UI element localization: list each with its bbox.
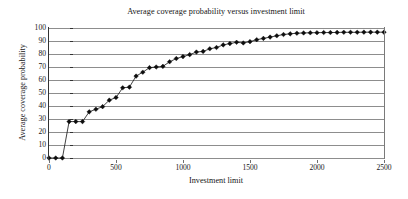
right-axis-line [384, 27, 385, 159]
data-point-marker [154, 65, 159, 70]
y-tick-label: 10 [24, 141, 46, 149]
data-point-marker [208, 47, 213, 52]
data-point-marker [194, 50, 199, 55]
y-tick-label: 40 [24, 102, 46, 110]
x-tick-mark [49, 160, 50, 163]
x-axis-ticks: 05001000150020002500 [49, 160, 384, 174]
data-point-marker [275, 34, 280, 39]
data-point-marker [335, 30, 340, 35]
data-point-marker [301, 31, 306, 36]
data-point-marker [167, 60, 172, 65]
data-point-marker [214, 45, 219, 50]
data-point-marker [127, 85, 132, 90]
x-tick-label: 1500 [230, 164, 270, 172]
data-point-marker [295, 31, 300, 36]
y-tick-mark [70, 41, 73, 42]
data-point-marker [234, 40, 239, 45]
data-point-marker [362, 30, 367, 35]
y-tick-mark [70, 67, 73, 68]
y-tick-mark [70, 106, 73, 107]
x-axis-label: Investment limit [48, 176, 384, 186]
x-tick-mark [183, 160, 184, 163]
chart-figure: Average coverage probability versus inve… [0, 0, 408, 199]
y-axis-ticks: 0102030405060708090100 [22, 28, 46, 158]
y-tick-mark [70, 28, 73, 29]
y-tick-label: 100 [24, 24, 46, 32]
y-tick-mark [70, 119, 73, 120]
y-tick-label: 20 [24, 128, 46, 136]
y-tick-mark [70, 158, 73, 159]
y-tick-mark [70, 145, 73, 146]
y-tick-mark [70, 80, 73, 81]
data-point-marker [315, 30, 320, 35]
y-tick-label: 60 [24, 76, 46, 84]
data-point-marker [181, 54, 186, 59]
data-point-marker [288, 32, 293, 37]
x-tick-label: 2000 [297, 164, 337, 172]
x-tick-mark [250, 160, 251, 163]
x-tick-mark [317, 160, 318, 163]
y-tick-mark [70, 93, 73, 94]
x-tick-label: 0 [29, 164, 69, 172]
data-point-marker [308, 31, 313, 36]
series-line [49, 32, 384, 158]
data-point-marker [141, 70, 146, 75]
y-tick-label: 50 [24, 89, 46, 97]
data-point-marker [355, 30, 360, 35]
y-tick-mark [70, 54, 73, 55]
data-point-marker [94, 107, 99, 112]
y-tick-label: 70 [24, 63, 46, 71]
data-point-marker [228, 41, 233, 46]
y-tick-mark [70, 132, 73, 133]
data-point-marker [120, 86, 125, 91]
data-point-marker [254, 37, 259, 42]
data-point-marker [375, 30, 380, 35]
x-tick-mark [116, 160, 117, 163]
data-point-marker [87, 110, 92, 115]
y-tick-label: 30 [24, 115, 46, 123]
data-point-marker [348, 30, 353, 35]
data-point-marker [261, 36, 266, 41]
data-point-marker [147, 65, 152, 70]
data-point-marker [321, 30, 326, 35]
x-tick-label: 2500 [364, 164, 404, 172]
x-tick-label: 500 [96, 164, 136, 172]
data-point-marker [80, 119, 85, 124]
data-point-marker [281, 32, 286, 37]
data-point-marker [201, 49, 206, 54]
data-point-marker [74, 119, 79, 124]
data-point-marker [368, 30, 373, 35]
series-overlay [49, 28, 384, 158]
y-tick-label: 0 [24, 154, 46, 162]
y-axis-line [48, 27, 49, 159]
data-point-marker [328, 30, 333, 35]
data-point-marker [187, 52, 192, 57]
data-point-marker [342, 30, 347, 35]
data-point-marker [268, 35, 273, 40]
data-point-marker [161, 64, 166, 69]
data-point-marker [174, 56, 179, 61]
x-tick-label: 1000 [163, 164, 203, 172]
data-point-marker [114, 95, 119, 100]
chart-title: Average coverage probability versus inve… [48, 7, 384, 17]
y-tick-label: 90 [24, 37, 46, 45]
data-point-marker [248, 39, 253, 44]
x-tick-mark [384, 160, 385, 163]
data-point-marker [241, 41, 246, 46]
y-tick-label: 80 [24, 50, 46, 58]
data-point-marker [134, 74, 139, 79]
gridline [49, 158, 384, 159]
data-point-marker [221, 43, 226, 48]
plot-area [49, 28, 384, 158]
